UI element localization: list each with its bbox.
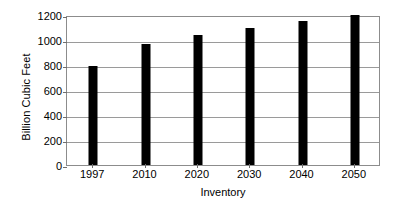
y-axis-tick-label: 200 (30, 135, 62, 147)
y-axis-tickmark (63, 117, 67, 118)
y-axis-tick-labels: 020040060080010001200 (30, 0, 62, 211)
y-axis-tickmark (63, 17, 67, 18)
y-axis-tick-label: 1000 (30, 35, 62, 47)
y-axis-tickmark (63, 42, 67, 43)
x-axis-tick-label: 2010 (132, 168, 156, 180)
y-axis-tick-label: 1200 (30, 10, 62, 22)
x-axis-tick-label: 2050 (342, 168, 366, 180)
x-axis-tick-label: 2040 (289, 168, 313, 180)
bar-2020 (193, 35, 202, 165)
gridline (67, 67, 379, 68)
bar-2010 (141, 44, 150, 165)
gridline (67, 142, 379, 143)
bar-2030 (246, 28, 255, 166)
y-axis-tick-label: 600 (30, 85, 62, 97)
gridline (67, 42, 379, 43)
x-axis-tick-label: 2030 (237, 168, 261, 180)
gridline (67, 117, 379, 118)
y-axis-tickmark (63, 142, 67, 143)
gridline (67, 92, 379, 93)
y-axis-tickmark (63, 92, 67, 93)
bar-1997 (89, 66, 98, 165)
y-axis-tickmark (63, 67, 67, 68)
bar-2040 (298, 21, 307, 165)
x-axis-tick-label: 2020 (185, 168, 209, 180)
bar-chart: Billion Cubic Feet 020040060080010001200… (0, 0, 402, 211)
y-axis-tick-label: 0 (30, 160, 62, 172)
x-axis-tick-label: 1997 (80, 168, 104, 180)
y-axis-tick-label: 800 (30, 60, 62, 72)
x-axis-title: Inventory (66, 186, 380, 198)
x-axis-tick-labels: 199720102020203020402050 (66, 168, 380, 184)
bar-2050 (350, 15, 359, 165)
y-axis-tick-label: 400 (30, 110, 62, 122)
plot-area (66, 16, 380, 166)
